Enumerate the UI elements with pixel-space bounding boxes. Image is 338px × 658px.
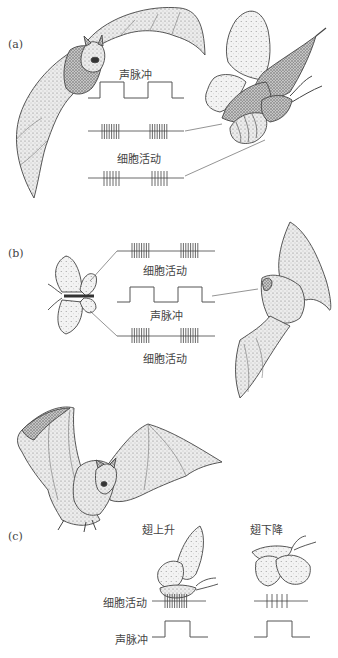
cell-activity-label-b-top: 细胞活动 [143, 262, 187, 278]
cell-activity-trace-wing-up [152, 594, 206, 608]
panel-b [48, 222, 331, 398]
bat-b-illustration [236, 222, 331, 398]
moth-a-illustration [206, 11, 326, 143]
cell-activity-trace-b-bottom [117, 328, 215, 343]
cell-activity-label-a: 细胞活动 [117, 150, 161, 166]
connector-line [185, 140, 265, 176]
sound-pulse-trace-b [117, 287, 215, 302]
sound-pulse-label-b: 声脉冲 [150, 307, 183, 323]
cell-activity-trace-a2 [88, 171, 184, 186]
cell-activity-trace-wing-down [254, 594, 308, 608]
connector-line [90, 251, 117, 281]
connector-line [185, 124, 222, 131]
sound-pulse-trace-a [88, 82, 184, 98]
sound-pulse-trace-wing-down [254, 621, 310, 637]
sound-pulse-label-a: 声脉冲 [119, 66, 152, 82]
sound-pulse-label-c: 声脉冲 [115, 631, 148, 647]
cell-activity-label-b-bottom: 细胞活动 [143, 350, 187, 366]
moth-b-illustration [48, 256, 97, 334]
wing-down-label: 翅下降 [250, 521, 283, 537]
cell-activity-label-c: 细胞活动 [103, 594, 147, 610]
bat-c-illustration [18, 407, 223, 532]
moth-wing-down-illustration [252, 536, 316, 586]
bat-moth-echolocation-figure: (a) 声脉冲 细胞活动 (b) 细胞活动 声脉冲 细胞活动 (c) 翅上升 翅… [0, 0, 338, 658]
panel-c-label: (c) [8, 530, 23, 543]
connector-line [90, 311, 117, 336]
panel-a-label: (a) [8, 38, 23, 51]
cell-activity-trace-a1 [88, 124, 184, 139]
cell-activity-trace-b-top [117, 243, 215, 258]
wing-up-label: 翅上升 [142, 521, 175, 537]
bat-a-illustration [16, 7, 205, 198]
panel-b-label: (b) [8, 247, 24, 260]
illustration-layer [0, 0, 338, 658]
connector-line [212, 289, 258, 296]
panel-a [16, 7, 326, 198]
sound-pulse-trace-wing-up [152, 621, 208, 637]
